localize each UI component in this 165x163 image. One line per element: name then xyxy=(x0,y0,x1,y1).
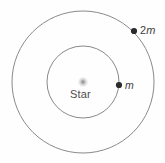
inner-planet-label: m xyxy=(125,80,134,91)
star-core-icon xyxy=(82,81,85,84)
outer-planet-label-mass: m xyxy=(146,24,155,36)
orbit-diagram: Star m 2m xyxy=(0,0,165,163)
star-label: Star xyxy=(70,89,91,100)
inner-planet-dot xyxy=(116,82,122,88)
outer-planet-label: 2m xyxy=(140,25,155,36)
outer-planet-dot xyxy=(131,28,137,34)
